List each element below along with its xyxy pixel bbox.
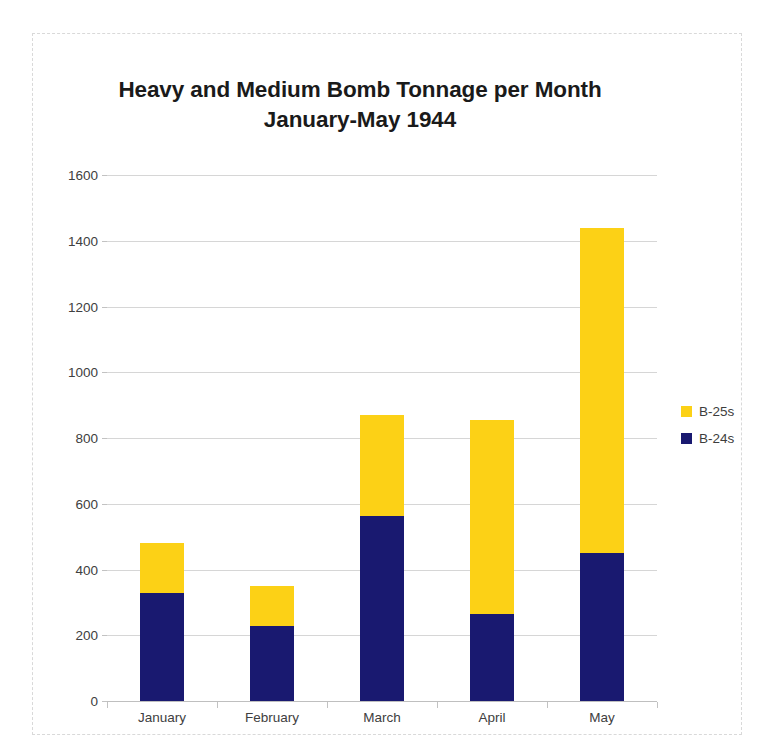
bar-segment-b24s-march[interactable] [360, 516, 404, 701]
bar-segment-b25s-may[interactable] [580, 228, 624, 553]
bar-january[interactable] [140, 543, 184, 701]
x-axis-label-march: March [322, 710, 442, 725]
y-tick-label-200: 200 [75, 628, 98, 643]
y-tick-label-0: 0 [90, 694, 98, 709]
y-tick-label-1000: 1000 [68, 365, 98, 380]
chart-title: Heavy and Medium Bomb Tonnage per Month … [60, 75, 660, 136]
bar-segment-b25s-april[interactable] [470, 420, 514, 614]
x-tick-mark-5 [657, 702, 658, 708]
legend-label-b-25s: B-25s [699, 404, 734, 419]
y-tick-mark-1400 [102, 241, 107, 242]
y-tick-mark-1600 [102, 175, 107, 176]
y-tick-mark-200 [102, 635, 107, 636]
bar-segment-b24s-may[interactable] [580, 553, 624, 701]
y-tick-mark-600 [102, 504, 107, 505]
x-axis-label-january: January [102, 710, 222, 725]
y-tick-mark-1000 [102, 372, 107, 373]
chart-title-line-1: Heavy and Medium Bomb Tonnage per Month [60, 75, 660, 105]
chart-legend: B-25sB-24s [681, 398, 734, 452]
y-tick-mark-1200 [102, 307, 107, 308]
y-tick-mark-800 [102, 438, 107, 439]
gridline-1200 [107, 307, 657, 308]
x-tick-mark-2 [327, 702, 328, 708]
bar-february[interactable] [250, 586, 294, 701]
chart-title-line-2: January-May 1944 [60, 105, 660, 135]
x-tick-mark-4 [547, 702, 548, 708]
x-axis-label-may: May [542, 710, 662, 725]
bar-segment-b25s-january[interactable] [140, 543, 184, 592]
legend-label-b-24s: B-24s [699, 431, 734, 446]
bar-april[interactable] [470, 420, 514, 701]
bar-segment-b24s-april[interactable] [470, 614, 514, 701]
plot-area: 02004006008001000120014001600 [107, 175, 657, 701]
legend-swatch-icon-b-25s [681, 406, 692, 417]
legend-item-b-24s[interactable]: B-24s [681, 425, 734, 452]
bar-segment-b25s-march[interactable] [360, 415, 404, 516]
bar-segment-b25s-february[interactable] [250, 586, 294, 626]
y-tick-label-1200: 1200 [68, 299, 98, 314]
gridline-1400 [107, 241, 657, 242]
legend-item-b-25s[interactable]: B-25s [681, 398, 734, 425]
y-tick-label-600: 600 [75, 496, 98, 511]
x-axis-line [107, 701, 657, 702]
x-axis-label-april: April [432, 710, 552, 725]
y-tick-label-800: 800 [75, 431, 98, 446]
y-tick-label-400: 400 [75, 562, 98, 577]
x-tick-mark-0 [107, 702, 108, 708]
y-tick-label-1600: 1600 [68, 168, 98, 183]
legend-swatch-icon-b-24s [681, 433, 692, 444]
y-tick-label-1400: 1400 [68, 233, 98, 248]
gridline-1000 [107, 372, 657, 373]
bar-chart: Heavy and Medium Bomb Tonnage per Month … [0, 0, 767, 747]
x-axis-label-february: February [212, 710, 332, 725]
bar-march[interactable] [360, 415, 404, 701]
x-tick-mark-3 [437, 702, 438, 708]
bar-may[interactable] [580, 228, 624, 701]
bar-segment-b24s-february[interactable] [250, 626, 294, 701]
x-tick-mark-1 [217, 702, 218, 708]
y-tick-mark-400 [102, 570, 107, 571]
gridline-1600 [107, 175, 657, 176]
bar-segment-b24s-january[interactable] [140, 593, 184, 701]
